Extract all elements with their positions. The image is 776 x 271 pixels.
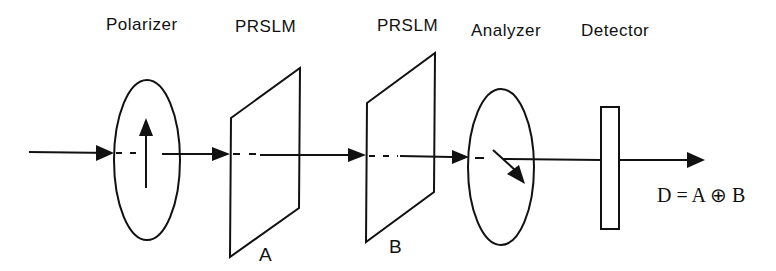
prslm-b	[366, 53, 469, 242]
analyzer-label: Analyzer	[471, 21, 541, 41]
output-equation: D = A ⊕ B	[657, 183, 745, 207]
prslm-a	[230, 68, 366, 257]
polarizer	[114, 80, 180, 240]
prslm-b-label: PRSLM	[377, 16, 438, 36]
analyzer	[468, 89, 601, 245]
input-beam	[29, 145, 114, 161]
optical-setup-diagram	[0, 0, 776, 271]
prslm-b-sublabel: B	[389, 236, 402, 258]
detector-label: Detector	[581, 21, 649, 41]
output-beam	[620, 152, 705, 168]
vertical-polarization-arrow-icon	[139, 118, 153, 188]
prslm-a-sublabel: A	[259, 244, 272, 266]
detector	[601, 107, 619, 229]
polarizer-label: Polarizer	[106, 15, 178, 35]
beam-segment-1	[162, 147, 230, 161]
diagonal-polarization-arrow-icon	[493, 150, 525, 184]
prslm-a-label: PRSLM	[235, 17, 296, 37]
